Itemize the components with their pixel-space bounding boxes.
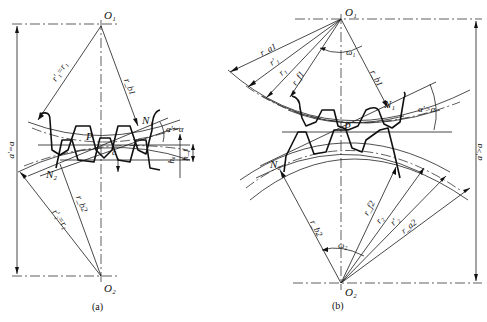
pressure-angle-label-a: α′=α: [166, 124, 184, 134]
omega2-label: ω₂: [338, 240, 347, 250]
n1-label-b: N₁: [383, 98, 395, 110]
o2-label-a: O₂: [104, 282, 116, 294]
n1-label-a: N₁: [141, 114, 153, 126]
base-radius-label-1-a: r_b1: [122, 77, 138, 97]
root-radius-line-2-b: [341, 167, 396, 283]
o1-label-a: O₁: [104, 9, 116, 21]
lower-gear-teeth-b: [284, 128, 400, 178]
addendum-radius-line-2-b: [341, 188, 470, 283]
addendum-radius-line-1-b: [230, 19, 341, 72]
op-pitch-radius-line-2-b: [341, 176, 446, 283]
base-radius-label-2-a: r_b2: [74, 194, 90, 214]
gear-meshing-diagram: a′=a O₁ O₂ r′₁=r₁ r_b1 r′₂=r₂ r_b2: [0, 0, 487, 322]
clearance-label-a: c: [112, 147, 116, 157]
panel-b: a′>a O₁ O₂ r_a1 r′₁ r₁ r_f1 r_b1 ω₁: [228, 6, 484, 312]
center-distance-label-a: a′=a: [6, 141, 16, 159]
op-pitch-radius-label-2-b: r′₂: [388, 214, 401, 227]
caption-a: (a): [92, 301, 103, 313]
caption-b: (b): [332, 300, 344, 312]
o2-label-b: O₂: [345, 286, 357, 298]
omega1-label: ω₁: [346, 47, 355, 57]
root-radius-label-1-b: r_f1: [289, 69, 306, 87]
addendum-radius-label-1-b: r_a1: [258, 41, 278, 58]
base-radius-line-1-b: [341, 19, 388, 108]
addendum-label-a: hₐ: [166, 156, 176, 164]
n2-label-a: N₂: [45, 168, 57, 180]
pitch-radius-label-1-b: r₁: [276, 66, 288, 78]
n2-label-b: N₂: [269, 158, 281, 170]
base-radius-label-1-b: r_b1: [368, 68, 385, 88]
pitch-radius-label-2-a: r′₂=r₂: [50, 207, 70, 230]
panel-a: a′=a O₁ O₂ r′₁=r₁ r_b1 r′₂=r₂ r_b2: [6, 9, 195, 313]
o1-label-b: O₁: [345, 6, 357, 18]
pressure-angle-label-b: α′>α: [418, 104, 436, 114]
base-radius-label-2-b: r_b2: [308, 218, 325, 238]
pitch-radius-line-1-a: [38, 26, 101, 120]
pitch-point-label-a: P: [85, 130, 93, 142]
center-distance-label-b: a′>a: [474, 143, 484, 161]
root-radius-label-2-b: r_f2: [361, 199, 377, 217]
pitch-point-label-b: P: [343, 120, 351, 132]
op-pitch-radius-label-1-b: r′₁: [267, 55, 280, 68]
pitch-radius-label-1-a: r′₁=r₁: [49, 60, 69, 83]
dedendum-label-a: h_f: [180, 148, 190, 161]
base-radius-line-1-a: [101, 26, 138, 126]
